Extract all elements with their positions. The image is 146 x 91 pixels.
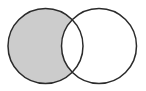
venn-diagram — [0, 0, 146, 91]
set-b-circle — [62, 9, 137, 84]
